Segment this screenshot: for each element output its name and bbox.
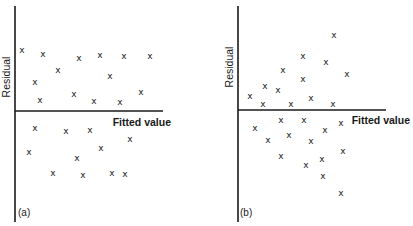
data-point-x-marker: x bbox=[98, 143, 104, 153]
data-point-x-marker: x bbox=[275, 85, 281, 95]
panel-b-ylabel: Residual bbox=[223, 47, 235, 88]
data-point-x-marker: x bbox=[37, 95, 43, 105]
data-point-x-marker: x bbox=[303, 160, 309, 170]
data-point-x-marker: x bbox=[19, 45, 25, 55]
data-point-x-marker: x bbox=[252, 123, 258, 133]
data-point-x-marker: x bbox=[344, 69, 350, 79]
panel-b-points: xxxxxxxxxxxxxxxxxxxxxxxxxxx bbox=[247, 30, 350, 198]
data-point-x-marker: x bbox=[308, 136, 314, 146]
data-point-x-marker: x bbox=[40, 49, 46, 59]
data-point-x-marker: x bbox=[338, 188, 344, 198]
data-point-x-marker: x bbox=[322, 125, 328, 135]
data-point-x-marker: x bbox=[76, 53, 82, 63]
data-point-x-marker: x bbox=[338, 118, 344, 128]
data-point-x-marker: x bbox=[32, 77, 38, 87]
data-point-x-marker: x bbox=[278, 115, 284, 125]
panel-a-xlabel: Fitted value bbox=[113, 116, 172, 128]
panel-a-ylabel: Residual bbox=[0, 57, 12, 98]
data-point-x-marker: x bbox=[71, 89, 77, 99]
panel-a-tag: (a) bbox=[18, 207, 30, 218]
data-point-x-marker: x bbox=[55, 65, 61, 75]
data-point-x-marker: x bbox=[91, 96, 97, 106]
data-point-x-marker: x bbox=[50, 168, 56, 178]
data-point-x-marker: x bbox=[107, 71, 113, 81]
data-point-x-marker: x bbox=[147, 51, 153, 61]
data-point-x-marker: x bbox=[74, 153, 80, 163]
data-point-x-marker: x bbox=[80, 170, 86, 180]
data-point-x-marker: x bbox=[117, 97, 123, 107]
data-point-x-marker: x bbox=[109, 168, 115, 178]
data-point-x-marker: x bbox=[87, 125, 93, 135]
panel-b-tag: (b) bbox=[240, 207, 252, 218]
data-point-x-marker: x bbox=[288, 99, 294, 109]
data-point-x-marker: x bbox=[280, 65, 286, 75]
data-point-x-marker: x bbox=[32, 123, 38, 133]
data-point-x-marker: x bbox=[331, 30, 337, 40]
data-point-x-marker: x bbox=[265, 135, 271, 145]
panel-b: Residual Fitted value (b) xxxxxxxxxxxxxx… bbox=[223, 6, 410, 222]
data-point-x-marker: x bbox=[323, 57, 329, 67]
data-point-x-marker: x bbox=[286, 130, 292, 140]
data-point-x-marker: x bbox=[247, 91, 253, 101]
data-point-x-marker: x bbox=[121, 51, 127, 61]
data-point-x-marker: x bbox=[319, 154, 325, 164]
data-point-x-marker: x bbox=[301, 115, 307, 125]
data-point-x-marker: x bbox=[138, 87, 144, 97]
data-point-x-marker: x bbox=[278, 151, 284, 161]
data-point-x-marker: x bbox=[262, 81, 268, 91]
data-point-x-marker: x bbox=[300, 51, 306, 61]
panel-b-xlabel: Fitted value bbox=[352, 114, 411, 126]
data-point-x-marker: x bbox=[340, 146, 346, 156]
data-point-x-marker: x bbox=[97, 50, 103, 60]
panel-a: Residual Fitted value (a) xxxxxxxxxxxxxx… bbox=[0, 6, 171, 222]
data-point-x-marker: x bbox=[260, 99, 266, 109]
data-point-x-marker: x bbox=[330, 99, 336, 109]
data-point-x-marker: x bbox=[308, 93, 314, 103]
data-point-x-marker: x bbox=[300, 74, 306, 84]
data-point-x-marker: x bbox=[63, 126, 69, 136]
data-point-x-marker: x bbox=[26, 147, 32, 157]
residual-plots-figure: Residual Fitted value (a) xxxxxxxxxxxxxx… bbox=[0, 0, 413, 226]
data-point-x-marker: x bbox=[122, 169, 128, 179]
panel-a-points: xxxxxxxxxxxxxxxxxxxxxxxxx bbox=[19, 45, 153, 180]
data-point-x-marker: x bbox=[127, 134, 133, 144]
data-point-x-marker: x bbox=[320, 171, 326, 181]
